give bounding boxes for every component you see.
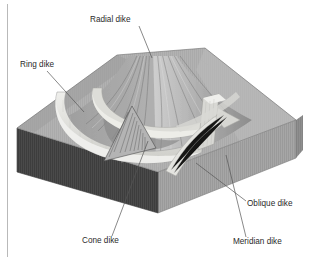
diagram-canvas: Radial dike Ring dike Cone dike Oblique … <box>0 0 313 261</box>
label-cone-dike: Cone dike <box>82 236 119 245</box>
label-ring-dike: Ring dike <box>20 60 55 69</box>
label-oblique-dike: Oblique dike <box>247 199 293 208</box>
label-radial-dike: Radial dike <box>90 15 131 24</box>
label-meridian-dike: Meridian dike <box>233 237 282 246</box>
dike-block-diagram: Radial dike Ring dike Cone dike Oblique … <box>0 0 313 261</box>
